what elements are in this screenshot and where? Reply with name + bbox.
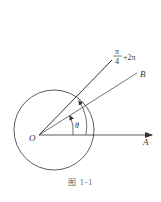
angle-diagram: O A B θ π 4 +2π: [0, 0, 161, 202]
svg-text:4: 4: [115, 57, 119, 66]
unit-circle: [14, 90, 94, 170]
svg-text:π: π: [115, 47, 119, 56]
ray-a-label: A: [142, 137, 149, 147]
angle-theta-label: θ: [75, 121, 79, 130]
theta-arc: [70, 116, 73, 135]
ray-ob: [39, 73, 137, 135]
outer-arc: [79, 101, 87, 135]
svg-text:+2π: +2π: [123, 53, 136, 62]
terminal-angle-label: π 4 +2π: [113, 47, 136, 66]
figure-caption: 图 1-1: [0, 176, 161, 187]
ray-b-label: B: [140, 69, 146, 79]
origin-label: O: [29, 133, 36, 143]
